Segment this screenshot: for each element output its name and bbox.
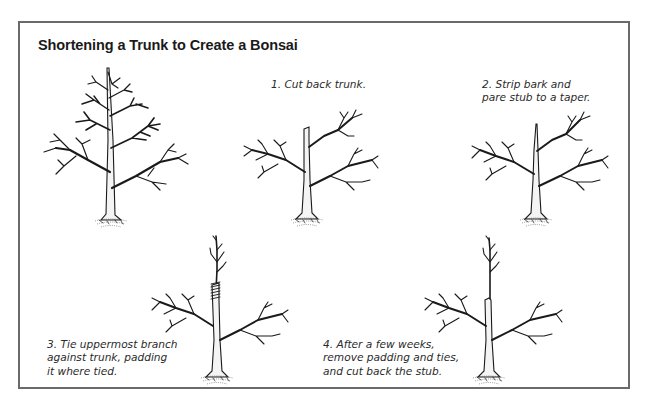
illustrations [0, 0, 658, 408]
tree-icon-trunk-cut-back [244, 110, 378, 226]
tree-icon-stub-removed [425, 236, 562, 384]
tree-icon-branch-tied-to-trunk [152, 236, 288, 384]
tree-icon-stub-tapered [472, 112, 608, 226]
tree-icon-original-full-trunk [44, 68, 188, 227]
